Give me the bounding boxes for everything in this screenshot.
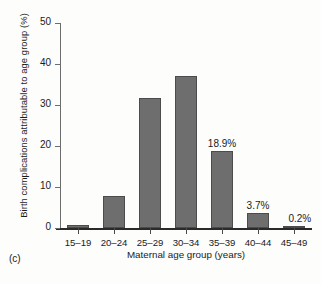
- x-tick: [186, 228, 187, 234]
- x-tick-label: 35–39: [209, 237, 236, 248]
- bar[interactable]: [211, 151, 233, 228]
- x-tick-label: 20–24: [101, 237, 128, 248]
- y-tick-label: 0: [45, 221, 51, 232]
- x-tick-label: 25–29: [137, 237, 164, 248]
- x-tick-label: 15–19: [65, 237, 92, 248]
- bar-value-label: 0.2%: [288, 213, 311, 224]
- bar[interactable]: [175, 76, 197, 228]
- bar-value-label: 3.7%: [247, 200, 270, 211]
- y-tick-label: 40: [40, 57, 51, 68]
- y-tick-label: 20: [40, 139, 51, 150]
- x-tick: [78, 228, 79, 234]
- y-axis-line: [60, 23, 61, 228]
- y-tick-label: 50: [40, 16, 51, 27]
- x-tick: [222, 228, 223, 234]
- y-tick: 10: [55, 187, 60, 188]
- bar[interactable]: [283, 226, 305, 228]
- x-tick-label: 45–49: [281, 237, 308, 248]
- bar-value-label: 18.9%: [208, 138, 236, 149]
- bar[interactable]: [247, 213, 269, 228]
- bar[interactable]: [67, 225, 89, 228]
- y-tick-label: 30: [40, 98, 51, 109]
- y-axis-title: Birth complications attributable to age …: [18, 1, 29, 231]
- y-tick: 40: [55, 64, 60, 65]
- x-tick: [114, 228, 115, 234]
- plot-area: 01020304050 15–1920–2425–2930–3435–3940–…: [60, 23, 312, 228]
- x-tick-label: 40–44: [245, 237, 272, 248]
- panel-label: (c): [9, 253, 21, 264]
- x-tick: [150, 228, 151, 234]
- x-tick: [294, 228, 295, 234]
- bar[interactable]: [139, 98, 161, 228]
- x-axis-title: Maternal age group (years): [60, 249, 312, 260]
- x-tick: [258, 228, 259, 234]
- y-tick: 50: [55, 23, 60, 24]
- x-tick-label: 30–34: [173, 237, 200, 248]
- y-tick: 0: [55, 228, 60, 229]
- bar[interactable]: [103, 196, 125, 228]
- y-tick: 30: [55, 105, 60, 106]
- figure-panel-c: Birth complications attributable to age …: [0, 0, 321, 284]
- y-tick-label: 10: [40, 180, 51, 191]
- y-tick: 20: [55, 146, 60, 147]
- x-axis-line: [56, 228, 312, 230]
